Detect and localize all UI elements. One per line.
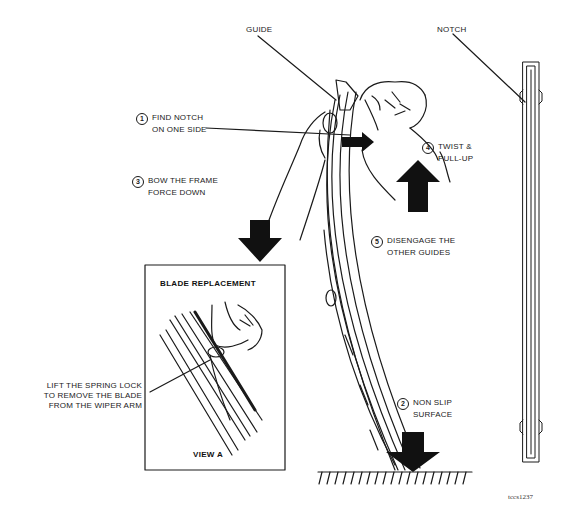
- step5-label: 5DISENGAGE THE OTHER GUIDES: [371, 236, 455, 258]
- notch-label: NOTCH: [437, 25, 466, 35]
- notch-leader-line: [453, 34, 525, 102]
- step2-label: 2NON SLIP SURFACE: [397, 398, 452, 420]
- step3-label: 3BOW THE FRAME FORCE DOWN: [132, 176, 218, 198]
- step4-label: 4TWIST & PULL-UP: [422, 142, 473, 164]
- guide-label: GUIDE: [246, 25, 272, 35]
- spring-lock-label: LIFT THE SPRING LOCK TO REMOVE THE BLADE…: [18, 381, 142, 411]
- ground-surface: [318, 472, 472, 484]
- step-number-badge: 1: [136, 113, 148, 125]
- down-arrow-icon: [386, 432, 440, 472]
- step-number-badge: 2: [397, 398, 409, 410]
- step-number-badge: 3: [132, 176, 144, 188]
- guide-leader-line: [258, 36, 336, 100]
- inset-title: BLADE REPLACEMENT: [148, 279, 268, 288]
- wiper-blade-illustration: [0, 0, 573, 520]
- figure-code: tccs1237: [508, 493, 533, 501]
- inset-frame: [145, 265, 285, 470]
- inset-caption: VIEW A: [148, 450, 268, 459]
- down-arrow-icon: [238, 220, 282, 262]
- up-arrow-icon: [396, 160, 440, 212]
- step-number-badge: 4: [422, 142, 434, 154]
- blade-frame: [520, 62, 542, 462]
- step-number-badge: 5: [371, 236, 383, 248]
- step1-label: 1FIND NOTCH ON ONE SIDE: [136, 113, 207, 135]
